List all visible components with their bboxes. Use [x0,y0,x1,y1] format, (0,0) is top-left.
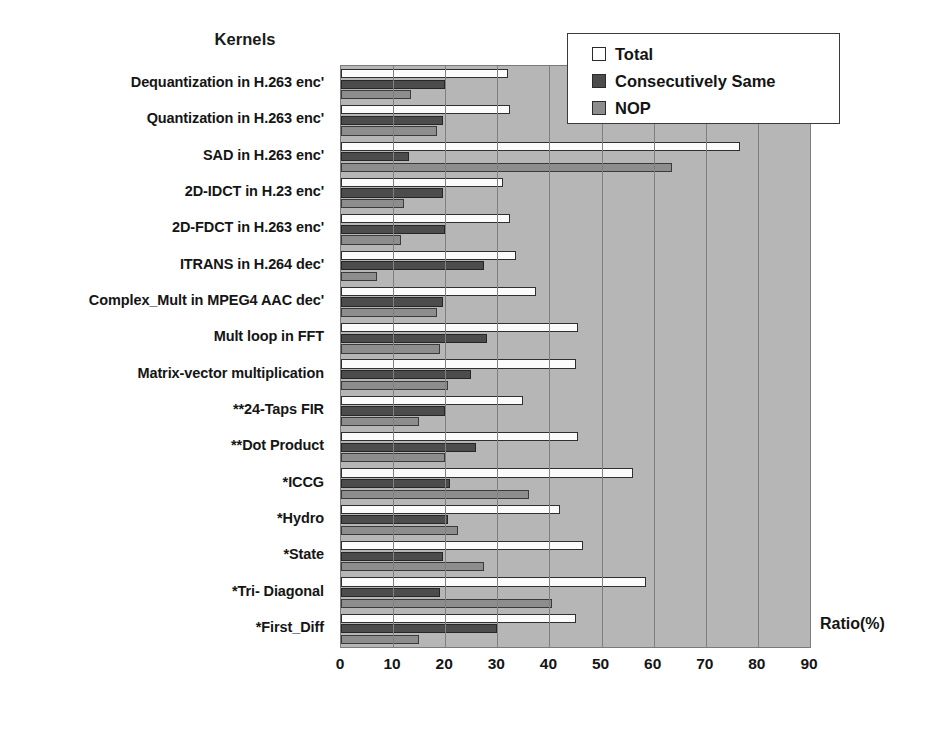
bar-group [341,139,810,175]
x-axis-tick-label: 40 [540,655,557,673]
bar-consecutively-same [341,479,450,488]
bar-group [341,574,810,610]
bar-consecutively-same [341,261,484,270]
legend-swatch-icon [592,101,606,115]
category-label: *State [284,546,325,562]
bar-group [341,393,810,429]
bar-group [341,248,810,284]
bar-total [341,323,578,332]
category-label: **Dot Product [231,437,324,453]
bar-nop [341,199,404,208]
category-label: Matrix-vector multiplication [137,365,324,381]
gridline [810,66,811,647]
bar-group [341,429,810,465]
category-label: Complex_Mult in MPEG4 AAC dec' [89,292,324,308]
bar-total [341,359,576,368]
bar-chart: Kernels Dequantization in H.263 enc'Quan… [0,0,937,738]
bar-total [341,468,633,477]
bar-consecutively-same [341,297,443,306]
category-label: *Hydro [277,510,324,526]
bar-group [341,284,810,320]
gridline [706,66,707,647]
bar-nop [341,635,419,644]
category-label: **24-Taps FIR [233,401,324,417]
bar-group [341,357,810,393]
bar-consecutively-same [341,624,497,633]
legend-label: NOP [615,100,651,117]
bar-nop [341,562,484,571]
category-label: *Tri- Diagonal [232,583,324,599]
x-axis-tick-label: 90 [800,655,817,673]
gridline [654,66,655,647]
category-label: Mult loop in FFT [214,328,324,344]
x-axis-tick-label: 60 [644,655,661,673]
bar-nop [341,526,458,535]
category-label: 2D-IDCT in H.23 enc' [185,183,324,199]
x-axis-tick-label: 50 [592,655,609,673]
bar-consecutively-same [341,515,448,524]
bar-group [341,502,810,538]
category-label-list: Dequantization in H.263 enc'Quantization… [0,65,332,648]
y-axis-title: Kernels [150,30,340,49]
legend-label: Total [615,46,653,63]
x-axis-tick-label: 20 [436,655,453,673]
bar-total [341,396,523,405]
category-label: 2D-FDCT in H.263 enc' [172,219,324,235]
gridline [445,66,446,647]
bar-nop [341,235,401,244]
bar-total [341,577,646,586]
gridline [549,66,550,647]
gridline [393,66,394,647]
category-label: Quantization in H.263 enc' [147,110,324,126]
bar-total [341,214,510,223]
legend-swatch-icon [592,47,606,61]
x-axis-tick-label: 70 [696,655,713,673]
category-label: *ICCG [283,474,324,490]
bar-total [341,432,578,441]
bar-nop [341,90,411,99]
bar-consecutively-same [341,552,443,561]
bar-nop [341,599,552,608]
gridline [758,66,759,647]
bar-consecutively-same [341,443,476,452]
legend-item: NOP [592,95,839,121]
bar-total [341,541,583,550]
x-axis-tick-list: 0102030405060708090 [340,655,811,685]
category-label: ITRANS in H.264 dec' [180,256,324,272]
plot-area [340,65,811,648]
bar-total [341,69,508,78]
bar-nop [341,163,672,172]
bar-nop [341,308,437,317]
bar-nop [341,344,440,353]
gridline [602,66,603,647]
bar-total [341,178,503,187]
bar-consecutively-same [341,334,487,343]
bar-consecutively-same [341,152,409,161]
category-label: *First_Diff [256,619,324,635]
bar-group [341,465,810,501]
bar-nop [341,490,529,499]
x-axis-tick-label: 80 [748,655,765,673]
bar-nop [341,126,437,135]
bar-consecutively-same [341,116,443,125]
legend-item: Total [592,41,839,67]
legend-swatch-icon [592,74,606,88]
bar-total [341,251,516,260]
bar-total [341,505,560,514]
bar-nop [341,381,448,390]
x-axis-tick-label: 30 [488,655,505,673]
category-label: SAD in H.263 enc' [203,147,324,163]
bar-total [341,614,576,623]
legend: TotalConsecutively SameNOP [567,33,840,124]
bar-total [341,287,536,296]
bar-nop [341,272,377,281]
bar-total [341,142,740,151]
bar-consecutively-same [341,370,471,379]
x-axis-tick-label: 0 [336,655,345,673]
x-axis-tick-label: 10 [383,655,400,673]
bar-nop [341,417,419,426]
x-axis-title: Ratio(%) [820,615,885,633]
bar-total [341,105,510,114]
legend-label: Consecutively Same [615,73,776,90]
bars-layer [341,66,810,647]
